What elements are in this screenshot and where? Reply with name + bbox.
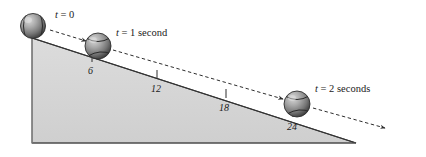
ball-t1: [85, 33, 112, 59]
time-label-t2: t = 2 seconds: [315, 83, 370, 94]
ball-t0: [21, 14, 46, 39]
time-label-t1: t = 1 second: [116, 27, 168, 38]
time-label-t1-value: 1 second: [130, 27, 168, 38]
time-label-t1-equals: =: [119, 27, 130, 38]
ball-t0-highlight: [24, 17, 32, 23]
motion-arrow-1: [50, 30, 86, 41]
ball-t0-body: [21, 14, 46, 39]
incline-plane: [32, 38, 356, 143]
time-label-t0: t = 0: [55, 9, 74, 20]
distance-label-6: 6: [88, 65, 93, 76]
ball-t1-highlight: [89, 37, 97, 43]
distance-label-12: 12: [151, 83, 161, 94]
time-label-t0-value: 0: [69, 9, 74, 20]
distance-label-18: 18: [219, 102, 229, 113]
ball-t2: [284, 91, 311, 117]
figure-canvas: t = 0 t = 1 second t = 2 seconds 6 12 18…: [0, 0, 426, 157]
inclined-plane-figure: t = 0 t = 1 second t = 2 seconds 6 12 18…: [0, 0, 426, 157]
distance-label-24: 24: [287, 121, 297, 132]
ball-t2-highlight: [288, 95, 296, 101]
time-label-t2-equals: =: [318, 83, 329, 94]
time-label-t2-value: 2 seconds: [329, 83, 370, 94]
motion-arrow-3: [313, 108, 385, 128]
time-label-t0-equals: =: [58, 9, 69, 20]
